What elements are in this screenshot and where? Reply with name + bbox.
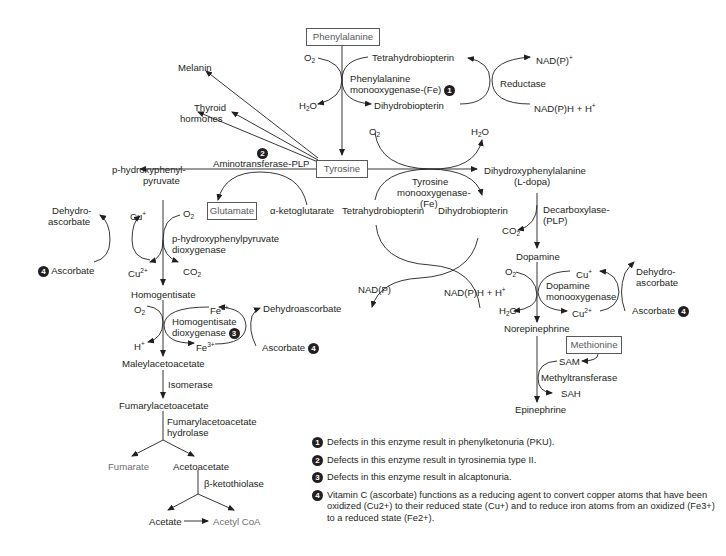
faah-label: Fumarylacetoacetate [167, 416, 257, 427]
cu-2plus-label-2: Cu2+ [128, 265, 148, 279]
nadp-label: NAD(P) [358, 284, 391, 295]
o2-label: O2 [304, 52, 315, 66]
h-plus-label: H+ [134, 338, 145, 352]
nadp-plus-label: NAD(P)+ [536, 52, 573, 66]
methionine-label: Methionine [571, 339, 618, 350]
dopamine-label: Dopamine [516, 251, 560, 262]
acetyl-coa-label: Acetyl CoA [213, 516, 260, 527]
tetrahydrobiopterin-label-2: Tetrahydrobiopterin [342, 205, 424, 216]
aminotransferase-label: Aminotransferase-PLP [213, 158, 310, 169]
co2-label-2: CO2 [183, 266, 201, 280]
homogentisate-label: Homogentisate [131, 289, 196, 300]
melanin-label: Melanin [178, 62, 212, 73]
footnote-text: Defects in this enzyme result in alcapto… [327, 472, 511, 482]
badge-4-icon: 4 [38, 266, 49, 277]
dopamine-monooxygenase-label: Dopamine [546, 280, 590, 291]
reductase-label: Reductase [500, 78, 546, 89]
dehydroascorbate-label: Dehydro- [636, 266, 675, 277]
footnote-4: 4Vitamin C (ascorbate) functions as a re… [312, 490, 722, 525]
dehydroascorbate-label-4: ascorbate [48, 216, 90, 227]
sam-label: SAM [559, 356, 580, 367]
dehydroascorbate-label-3: Dehydro- [52, 205, 91, 216]
thyroid-label: Thyroid [194, 102, 226, 113]
tyr-monooxygenase-label: Tyrosine [412, 176, 448, 187]
o2-label-2: O2 [369, 126, 380, 140]
fumarate-label: Fumarate [108, 461, 149, 472]
ascorbate-label-3: Ascorbate 4 [262, 342, 319, 354]
methyltransferase-label: Methyltransferase [541, 372, 617, 383]
isomerase-label: Isomerase [168, 379, 213, 390]
tyrosine-box: Tyrosine [316, 160, 368, 178]
o2-label-5: O2 [134, 304, 145, 318]
fe2-label: Fe2+ [210, 302, 229, 316]
badge-1-icon: 1 [444, 85, 455, 96]
o2-label-4: O2 [183, 208, 194, 222]
nadph-label-2: NAD(P)H + H+ [444, 284, 506, 298]
footnote-1: 1Defects in this enzyme result in phenyl… [312, 437, 722, 449]
tyrosine-label: Tyrosine [324, 163, 360, 174]
glutamate-box: Glutamate [207, 202, 257, 220]
footnote-text: Defects in this enzyme result in tyrosin… [327, 455, 536, 465]
maleylacetoacetate-label: Maleylacetoacetate [122, 358, 205, 369]
l-dopa-abbrev-label: (L-dopa) [514, 176, 550, 187]
glutamate-label: Glutamate [210, 205, 254, 216]
cu-plus-label: Cu+ [576, 266, 592, 280]
hydrolase-label: hydrolase [167, 427, 209, 438]
decarboxylase-label: Decarboxylase- [543, 204, 610, 215]
hppd-label-2: dioxygenase [172, 244, 226, 255]
hppd-label: p-hydroxyphenylpyruvate [172, 233, 279, 244]
plp-label: (PLP) [543, 215, 568, 226]
o2-label-3: O2 [505, 266, 516, 280]
p-hydroxyphenylpyruvate-label: p-hydroxyphenyl- [112, 164, 186, 175]
nadph-label: NAD(P)H + H+ [534, 100, 596, 114]
badge-3-icon: 3 [229, 328, 240, 339]
badge-1-icon: 1 [312, 437, 323, 448]
badge-2-icon: 2 [312, 455, 323, 466]
h2o-label: H2O [299, 100, 317, 114]
footnotes: 1Defects in this enzyme result in phenyl… [312, 437, 722, 530]
phenylalanine-label: Phenylalanine [313, 31, 373, 42]
fumarylacetoacetate-label: Fumarylacetoacetate [119, 400, 209, 411]
footnote-2: 2Defects in this enzyme result in tyrosi… [312, 455, 722, 467]
acetate-label: Acetate [149, 516, 182, 527]
badge-4-icon: 4 [308, 343, 319, 354]
badge-4-icon: 4 [678, 306, 689, 317]
footnote-3: 3Defects in this enzyme result in alcapt… [312, 472, 722, 484]
phe-monooxygenase-label: Phenylalanine [350, 73, 410, 84]
acetoacetate-label: Acetoacetate [173, 461, 229, 472]
alpha-ketoglutarate-label: α-ketoglutarate [270, 205, 334, 216]
footnote-text: Defects in this enzyme result in phenylk… [327, 437, 554, 447]
beta-ketothiolase-label: β-ketothiolase [204, 478, 264, 489]
ascorbate-label-2: 4 Ascorbate [38, 265, 94, 277]
h2o-label-3: H2O [499, 305, 517, 319]
norepinephrine-label: Norepinephrine [504, 323, 570, 334]
tyrosine-metabolism-diagram: Phenylalanine Tyrosine Glutamate Methion… [0, 0, 726, 556]
cu-2plus-label: Cu2+ [572, 305, 592, 319]
dehydroascorbate-label-5: Dehydroascorbate [263, 303, 341, 314]
hgd-label: Homogentisate [172, 316, 237, 327]
ascorbate-label: Ascorbate 4 [632, 305, 689, 317]
phenylalanine-box: Phenylalanine [306, 28, 380, 46]
dopamine-monooxygenase-label-2: monooxygenase [546, 291, 616, 302]
h2o-label-2: H2O [471, 126, 489, 140]
methionine-box: Methionine [566, 336, 622, 354]
l-dopa-label: Dihydroxyphenylalanine [484, 165, 586, 176]
co2-label: CO2 [502, 225, 520, 239]
tyr-monooxygenase-label-2: monooxygenase- [397, 187, 471, 198]
badge-4-icon: 4 [312, 490, 323, 501]
epinephrine-label: Epinephrine [515, 404, 566, 415]
phe-monooxygenase-label-2: monooxygenase-(Fe) 1 [350, 84, 455, 96]
sah-label: SAH [561, 388, 581, 399]
dehydroascorbate-label-2: ascorbate [636, 277, 678, 288]
cu-plus-label-2: Cu+ [130, 208, 146, 222]
dihydrobiopterin-label: Dihydrobiopterin [374, 100, 444, 111]
dihydrobiopterin-label-2: Dihydrobiopterin [438, 205, 508, 216]
badge-3-icon: 3 [312, 472, 323, 483]
pyruvate-label: pyruvate [143, 175, 180, 186]
fe3-label: Fe3+ [196, 339, 215, 353]
footnote-text: Vitamin C (ascorbate) functions as a red… [327, 490, 715, 523]
tetrahydrobiopterin-label: Tetrahydrobiopterin [372, 52, 454, 63]
hgd-label-2: dioxygenase 3 [172, 327, 240, 339]
hormones-label: hormones [180, 113, 223, 124]
